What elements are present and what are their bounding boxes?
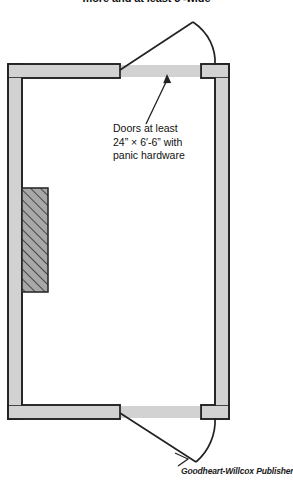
annotation-leader-line [146,80,167,124]
floor-plan-figure: more and at least 3'-wide [0,0,293,483]
door-annotation-line-3: panic hardware [113,149,223,163]
bottom-door-swing [120,413,215,462]
bottom-door-leaf [120,413,196,462]
hatched-block-rect [22,188,48,292]
top-door-swing [120,22,215,70]
floor-plan-drawing [0,0,293,483]
wall-seam-cover-left [9,78,21,405]
top-door-arc [193,22,215,65]
wall-top-right-stub [201,64,229,78]
wall-bottom-right-stub [201,405,229,419]
wall-seam-cover-top [22,65,201,77]
publisher-credit: Goodheart-Willcox Publisher [181,466,293,476]
wall-seam-cover-bottom [22,406,201,418]
door-annotation-line-2: 24” × 6′-6” with [113,136,223,150]
door-annotation-line-1: Doors at least [113,122,223,136]
annotation-leader [146,74,171,124]
bottom-door-arc [196,418,215,462]
hatched-block [22,188,48,292]
door-annotation: Doors at least 24” × 6′-6” with panic ha… [113,122,223,163]
top-door-leaf [120,22,193,70]
